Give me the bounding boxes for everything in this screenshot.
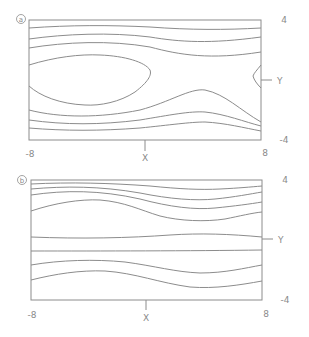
panel-b-contour [31,260,262,273]
panel-a-contour [29,26,261,30]
panel-b-contour [31,250,262,251]
panel-a-y-min-label: -4 [280,135,289,145]
figure: a Y X -8 8 4 -4 b [0,0,309,337]
panel-a-contour [29,43,261,56]
panel-a-contour [29,90,261,122]
panel-a-x-max-label: 8 [262,148,268,158]
panel-b-contour [31,271,262,288]
panel-b-label: b [20,177,25,185]
panel-a-x-axis-label: X [142,153,148,163]
panel-b-x-max-label: 8 [263,309,269,319]
panel-b-y-min-label: -4 [281,295,290,305]
panel-a-x-min-label: -8 [26,149,35,159]
panel-a-contour [29,112,261,126]
panel-b-x-min-label: -8 [28,310,37,320]
panel-b-contour [31,200,262,221]
panel-a-edge-vortex-contour [253,65,261,88]
panel-a-label: a [19,16,23,24]
panel-a-y-axis-label: Y [276,76,283,86]
panel-a-contour [29,34,261,41]
panel-a-plot-frame [29,20,261,140]
panel-b: b Y X -8 8 4 -4 [18,175,290,323]
panel-b-contour [31,183,262,189]
panel-a-vortex-contour [29,55,150,105]
panel-b-y-max-label: 4 [282,175,288,185]
panel-a-y-max-label: 4 [281,15,287,25]
panel-b-y-axis-label: Y [277,235,284,245]
panel-a: a Y X -8 8 4 -4 [17,15,289,164]
panel-b-contour [31,234,262,238]
panel-b-x-axis-label: X [143,313,149,323]
